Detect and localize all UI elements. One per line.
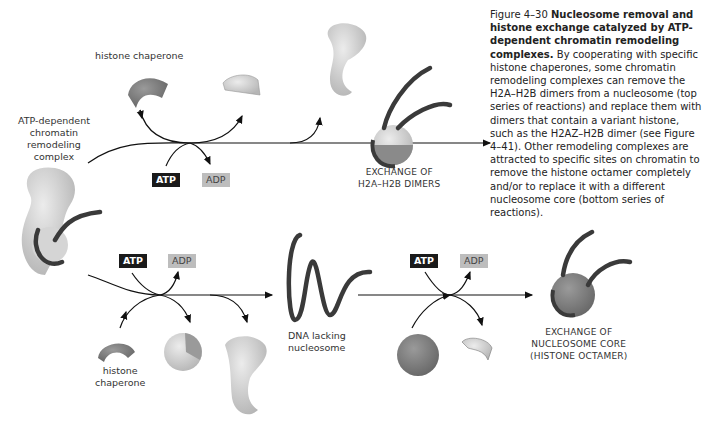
histone-chaperone-bottom-shape bbox=[98, 343, 135, 362]
figure-body: By cooperating with specific histone cha… bbox=[490, 49, 701, 218]
histone-chaperone-bottom-label: histone chaperone bbox=[95, 365, 145, 389]
histone-chaperone-released-shape bbox=[462, 338, 492, 360]
remodeling-complex-label: ATP-dependent chromatin remodeling compl… bbox=[18, 115, 90, 163]
nucleosome-exchanged-dimers bbox=[372, 68, 450, 166]
figure-number: Figure 4–30 bbox=[490, 9, 548, 20]
new-histone-octamer bbox=[397, 334, 439, 376]
top-reaction bbox=[88, 110, 490, 166]
remodeling-complex-released-top bbox=[328, 23, 367, 95]
atp-badge-bottom-2: ATP bbox=[410, 254, 438, 268]
atp-badge-top: ATP bbox=[152, 173, 180, 187]
removed-dimer-shape bbox=[223, 75, 260, 95]
histone-chaperone-top-label: histone chaperone bbox=[95, 50, 183, 62]
adp-badge-bottom-1: ADP bbox=[168, 254, 196, 268]
adp-badge-bottom-2: ADP bbox=[460, 254, 488, 268]
naked-dna-shape bbox=[289, 235, 370, 320]
adp-badge-top: ADP bbox=[202, 173, 230, 187]
figure-caption: Figure 4–30 Nucleosome removal and histo… bbox=[490, 8, 704, 219]
dna-lacking-label: DNA lacking nucleosome bbox=[288, 330, 346, 354]
bottom-reaction-1 bbox=[88, 272, 272, 328]
atp-badge-bottom-1: ATP bbox=[119, 254, 147, 268]
remodeling-complex-with-nucleosome bbox=[22, 167, 100, 275]
exchange-dimers-label: EXCHANGE OF H2A–H2B DIMERS bbox=[358, 166, 440, 190]
histone-chaperone-top-shape bbox=[128, 78, 168, 108]
bottom-reaction-2 bbox=[358, 272, 532, 328]
nucleosome-exchanged-core bbox=[551, 232, 630, 317]
remodeling-complex-released-bottom bbox=[225, 336, 267, 414]
histone-octamer-removed bbox=[164, 333, 202, 371]
exchange-core-label: EXCHANGE OF NUCLEOSOME CORE (HISTONE OCT… bbox=[530, 326, 627, 362]
